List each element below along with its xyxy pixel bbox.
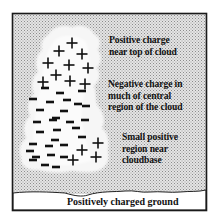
minus-charge-icon xyxy=(49,119,57,122)
label-base-positive-line2: region near xyxy=(122,143,178,155)
plus-charge-icon xyxy=(71,38,73,49)
minus-charge-icon xyxy=(60,156,68,159)
minus-charge-icon xyxy=(36,131,44,134)
minus-charge-icon xyxy=(29,159,37,162)
label-central-negative-line1: Negative charge in xyxy=(108,78,182,90)
plus-charge-icon xyxy=(69,76,71,87)
minus-charge-icon xyxy=(32,156,40,159)
charge-distribution-diagram: Positive charge near top of cloud Negati… xyxy=(0,0,219,222)
minus-charge-icon xyxy=(29,98,37,101)
plus-charge-icon xyxy=(72,155,74,166)
minus-charge-icon xyxy=(45,145,53,148)
minus-charge-icon xyxy=(74,103,82,106)
minus-charge-icon xyxy=(81,119,89,122)
minus-charge-icon xyxy=(56,92,64,95)
plus-charge-icon xyxy=(95,152,97,163)
plus-charge-icon xyxy=(47,58,49,69)
minus-charge-icon xyxy=(60,110,68,113)
label-central-negative-line2: much of central xyxy=(108,90,182,102)
plus-charge-icon xyxy=(81,49,83,60)
minus-charge-icon xyxy=(26,150,34,153)
minus-charge-icon xyxy=(46,101,54,104)
minus-charge-icon xyxy=(41,87,49,90)
minus-charge-icon xyxy=(78,136,86,139)
minus-charge-icon xyxy=(29,143,37,146)
minus-charge-icon xyxy=(51,139,59,142)
minus-charge-icon xyxy=(78,90,86,93)
plus-charge-icon xyxy=(84,79,86,90)
label-central-negative: Negative charge in much of central regio… xyxy=(108,78,182,113)
label-ground: Positively charged ground xyxy=(67,196,178,207)
plus-charge-icon xyxy=(58,46,60,57)
plus-charge-icon xyxy=(68,60,70,71)
plus-charge-icon xyxy=(97,138,99,149)
plus-charge-icon xyxy=(55,70,57,81)
minus-charge-icon xyxy=(36,109,44,112)
label-top-positive-line1: Positive charge xyxy=(109,34,177,46)
plus-charge-icon xyxy=(87,63,89,74)
minus-charge-icon xyxy=(60,144,68,147)
label-top-positive-line2: near top of cloud xyxy=(109,46,177,58)
minus-charge-icon xyxy=(41,164,49,167)
plus-charge-icon xyxy=(81,145,83,156)
plus-charge-icon xyxy=(42,77,44,88)
minus-charge-icon xyxy=(33,121,41,124)
label-base-positive-line1: Small positive xyxy=(122,131,178,143)
minus-charge-icon xyxy=(47,154,55,157)
minus-charge-icon xyxy=(52,166,60,169)
minus-charge-icon xyxy=(66,121,74,124)
label-top-positive: Positive charge near top of cloud xyxy=(109,34,177,57)
minus-charge-icon xyxy=(72,127,80,130)
minus-charge-icon xyxy=(63,99,71,102)
label-base-positive: Small positive region near cloudbase xyxy=(122,131,178,166)
label-base-positive-line3: cloudbase xyxy=(122,154,178,166)
label-central-negative-line3: region of the cloud xyxy=(108,101,182,113)
minus-charge-icon xyxy=(82,105,90,108)
minus-charge-icon xyxy=(53,129,61,132)
